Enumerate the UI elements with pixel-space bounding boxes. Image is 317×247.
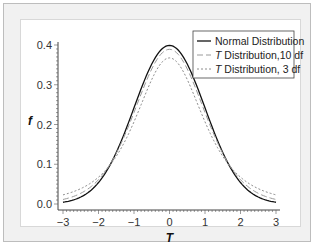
legend-label: T Distribution,10 df bbox=[215, 49, 303, 61]
y-tick-label: 0.3 bbox=[37, 79, 52, 91]
y-axis-label: f bbox=[28, 114, 33, 128]
y-tick-label: 0.4 bbox=[37, 39, 52, 51]
x-tick-label: 2 bbox=[237, 216, 243, 228]
x-tick-label: 0 bbox=[166, 216, 172, 228]
x-tick-label: −3 bbox=[57, 216, 70, 228]
x-axis-label: T bbox=[166, 231, 175, 245]
x-tick-label: −2 bbox=[92, 216, 105, 228]
y-tick-label: 0.2 bbox=[37, 119, 52, 131]
t3-distribution-curve bbox=[63, 58, 276, 195]
legend-label: Normal Distribution bbox=[215, 35, 304, 47]
x-tick-label: −1 bbox=[128, 216, 141, 228]
chart: 0.00.10.20.30.4f−3−2−10123TNormal Distri… bbox=[0, 0, 317, 247]
x-tick-label: 3 bbox=[273, 216, 279, 228]
y-tick-label: 0.0 bbox=[37, 198, 52, 210]
y-tick-label: 0.1 bbox=[37, 158, 52, 170]
legend-label: T Distribution, 3 df bbox=[215, 63, 300, 75]
x-tick-label: 1 bbox=[202, 216, 208, 228]
